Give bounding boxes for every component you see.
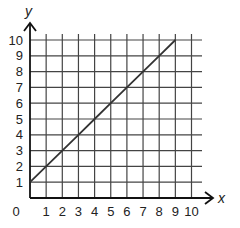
y-tick-label: 2 (16, 159, 23, 174)
tick-labels: 01234567891012345678910 (9, 33, 199, 220)
x-tick-label: 0 (12, 204, 19, 219)
y-tick-label: 4 (16, 127, 23, 142)
y-tick-label: 6 (16, 96, 23, 111)
y-tick-label: 9 (16, 48, 23, 63)
y-tick-label: 3 (16, 143, 23, 158)
axes (24, 23, 213, 204)
data-series (30, 40, 175, 182)
x-tick-label: 9 (172, 204, 179, 219)
x-tick-label: 8 (156, 204, 163, 219)
y-axis-label: y (24, 3, 33, 19)
x-tick-label: 1 (43, 204, 50, 219)
x-tick-label: 4 (91, 204, 98, 219)
x-tick-label: 2 (59, 204, 66, 219)
x-axis-label: x (217, 190, 226, 206)
y-tick-label: 1 (16, 175, 23, 190)
y-tick-label: 8 (16, 64, 23, 79)
y-tick-label: 7 (16, 80, 23, 95)
grid (30, 34, 202, 198)
x-tick-label: 5 (107, 204, 114, 219)
series-line (30, 40, 175, 182)
x-tick-label: 6 (123, 204, 130, 219)
x-tick-label: 7 (139, 204, 146, 219)
line-chart: 01234567891012345678910 x y (0, 0, 240, 228)
y-tick-label: 10 (9, 33, 23, 48)
x-tick-label: 10 (184, 204, 198, 219)
x-tick-label: 3 (75, 204, 82, 219)
y-tick-label: 5 (16, 112, 23, 127)
